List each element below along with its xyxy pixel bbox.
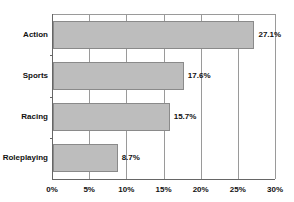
- gridline: [275, 14, 276, 179]
- category-label: Action: [0, 30, 48, 39]
- x-tick-label: 30%: [260, 185, 290, 194]
- bar-roleplaying: [53, 144, 118, 172]
- bar-action: [53, 21, 254, 49]
- x-tick-label: 25%: [223, 185, 253, 194]
- y-tick: [50, 97, 53, 98]
- y-tick: [50, 55, 53, 56]
- x-tick-label: 20%: [186, 185, 216, 194]
- value-label: 8.7%: [122, 153, 140, 162]
- x-tick-label: 15%: [149, 185, 179, 194]
- plot-top-border: [52, 14, 275, 15]
- value-label: 27.1%: [258, 30, 281, 39]
- x-tick-label: 5%: [74, 185, 104, 194]
- value-label: 17.6%: [188, 71, 211, 80]
- bar-racing: [53, 103, 170, 131]
- category-label: Sports: [0, 71, 48, 80]
- value-label: 15.7%: [174, 112, 197, 121]
- category-label: Racing: [0, 112, 48, 121]
- x-axis: [52, 179, 275, 180]
- x-tick-label: 10%: [111, 185, 141, 194]
- category-label: Roleplaying: [0, 153, 48, 162]
- x-tick-label: 0%: [37, 185, 67, 194]
- y-tick: [50, 138, 53, 139]
- horizontal-bar-chart: 0%5%10%15%20%25%30%Action27.1%Sports17.6…: [0, 0, 294, 202]
- bar-sports: [53, 62, 184, 90]
